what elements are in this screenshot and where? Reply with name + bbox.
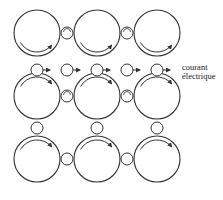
vortex-cell [14,136,60,182]
idle-wheel-circle [91,122,103,134]
idle-wheel [61,153,73,165]
particle-circle [31,64,43,76]
vortex-circle [74,10,120,56]
rotation-arrow-icon [21,77,52,87]
idle-wheel-circle [61,153,73,165]
vortex-circle [134,136,180,182]
idle-wheel [151,122,163,134]
idle-wheel [121,90,133,102]
idle-wheel [61,27,73,39]
current-particle [61,64,80,76]
current-particle [121,64,140,76]
current-label-line-2: électrique [182,72,216,81]
vortex-circle [134,10,180,56]
idle-wheels-group [31,27,163,165]
particle-circle [91,64,103,76]
current-label: courant électrique [182,63,216,81]
idle-wheel-circle [151,122,163,134]
idle-wheel [61,90,73,102]
vortex-cell [134,10,180,56]
idle-wheel [121,27,133,39]
particle-circle [121,64,133,76]
current-particle [151,64,170,76]
vortex-circle [14,136,60,182]
rotation-arrow-icon [141,140,172,150]
vortex-cell [74,10,120,56]
vortex-circle [134,73,180,119]
vortex-cell [74,73,120,119]
current-particle [91,64,110,76]
idle-wheel [31,122,43,134]
vortex-cell [74,136,120,182]
particle-circle [151,64,163,76]
vortex-cell [14,73,60,119]
rotation-arrow-icon [141,43,172,53]
rotation-arrow-icon [21,43,52,53]
vortex-circle [74,73,120,119]
rotation-arrow-icon [81,43,112,53]
rotation-arrow-icon [81,77,112,87]
rotation-arrow-icon [81,140,112,150]
idle-wheel-circle [121,153,133,165]
vortex-cell [14,10,60,56]
idle-wheel [91,122,103,134]
idle-wheel [121,153,133,165]
particle-circle [61,64,73,76]
vortex-circle [14,10,60,56]
vortex-circle [74,136,120,182]
current-particle [31,64,50,76]
vortex-circle [14,73,60,119]
idle-wheel-circle [31,122,43,134]
vortex-cell [134,73,180,119]
rotation-arrow-icon [21,140,52,150]
vortex-cell [134,136,180,182]
vortex-diagram [0,0,223,200]
vortices-group [14,10,180,182]
rotation-arrow-icon [141,77,172,87]
